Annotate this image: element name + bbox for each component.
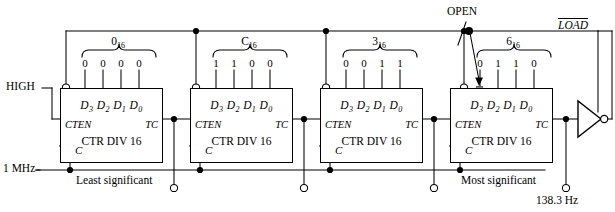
counter-block-3[interactable]: D3 D2 D1 D0 CTEN TC CTR DIV 16 C <box>450 88 553 163</box>
counter-block-1[interactable]: D3 D2 D1 D0 CTEN TC CTR DIV 16 C <box>190 88 293 163</box>
hex-value-3: 616 <box>493 36 533 50</box>
bit-2-2: 0 <box>355 58 373 69</box>
circuit-diagram: D3 D2 D1 D0 CTEN TC CTR DIV 16 C D3 D2 D… <box>0 0 615 212</box>
bit-0-3: 0 <box>76 58 94 69</box>
testpoint-1 <box>300 184 307 191</box>
output-terminal <box>562 184 569 191</box>
least-significant-note: Least significant <box>76 175 152 187</box>
tc-label-3: TC <box>535 119 548 130</box>
data-input-labels-3: D3 D2 D1 D0 <box>451 99 552 114</box>
cten-label-3: CTEN <box>455 119 481 130</box>
bit-1-2: 1 <box>225 58 243 69</box>
bit-1-0: 0 <box>261 58 279 69</box>
cten-label-1: CTEN <box>195 119 221 130</box>
tc-label-1: TC <box>275 119 288 130</box>
bit-3-2: 1 <box>489 58 507 69</box>
bit-3-3: 0 <box>471 58 489 69</box>
bit-0-1: 0 <box>112 58 130 69</box>
clock-label-0: C <box>75 144 82 156</box>
bit-0-0: 0 <box>130 58 148 69</box>
cten-label-0: CTEN <box>65 119 91 130</box>
hex-value-0: 016 <box>98 36 138 50</box>
testpoint-2 <box>430 184 437 191</box>
bit-1-3: 1 <box>207 58 225 69</box>
tc-label-0: TC <box>145 119 158 130</box>
clock-label-2: C <box>335 144 342 156</box>
open-node-dot <box>465 27 473 35</box>
bit-row-3: 0 1 1 0 <box>471 58 543 69</box>
counter-block-0[interactable]: D3 D2 D1 D0 CTEN TC CTR DIV 16 C <box>60 88 163 163</box>
cten-label-2: CTEN <box>325 119 351 130</box>
bit-2-3: 0 <box>337 58 355 69</box>
bit-3-1: 1 <box>507 58 525 69</box>
high-signal-label: HIGH <box>6 81 35 93</box>
load-signal-label: LOAD <box>558 18 588 32</box>
bit-1-1: 0 <box>243 58 261 69</box>
output-frequency-label: 138.3 Hz <box>536 195 578 207</box>
tc-label-2: TC <box>405 119 418 130</box>
bit-0-2: 0 <box>94 58 112 69</box>
counter-block-2[interactable]: D3 D2 D1 D0 CTEN TC CTR DIV 16 C <box>320 88 423 163</box>
clock-label-3: C <box>465 144 472 156</box>
data-input-labels-0: D3 D2 D1 D0 <box>61 99 162 114</box>
bit-2-1: 1 <box>373 58 391 69</box>
hex-value-2: 316 <box>359 36 399 50</box>
hex-value-1: C16 <box>229 36 269 50</box>
bit-row-1: 1 1 0 0 <box>207 58 279 69</box>
data-input-labels-2: D3 D2 D1 D0 <box>321 99 422 114</box>
junction-load-2 <box>323 28 329 34</box>
bit-3-0: 0 <box>525 58 543 69</box>
clock-label-1: C <box>205 144 212 156</box>
open-arrow-head <box>475 78 483 87</box>
bit-row-2: 0 0 1 1 <box>337 58 409 69</box>
most-significant-note: Most significant <box>461 175 536 187</box>
bit-row-0: 0 0 0 0 <box>76 58 148 69</box>
testpoint-0 <box>170 184 177 191</box>
junction-load-1 <box>193 28 199 34</box>
inverter-bubble <box>601 115 608 122</box>
data-input-labels-1: D3 D2 D1 D0 <box>191 99 292 114</box>
open-label: OPEN <box>447 6 477 18</box>
bit-2-0: 1 <box>391 58 409 69</box>
clock-input-label: 1 MHz <box>3 163 35 175</box>
